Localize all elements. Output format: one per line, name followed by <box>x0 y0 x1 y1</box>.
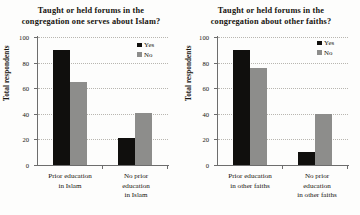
y-tick-0: 0 <box>34 165 38 166</box>
x-category-label-1: Prior education in Islam <box>32 172 108 191</box>
bar-no-group1 <box>250 68 267 165</box>
chart-panel-other-faiths: Taught or held forums in the congregatio… <box>180 0 360 215</box>
bar-yes-group2 <box>298 152 315 165</box>
y-axis-label: Total respondents <box>3 45 11 101</box>
legend-item-yes[interactable]: Yes <box>317 38 334 48</box>
x-axis-line <box>217 165 349 166</box>
chart-title: Taught or held forums in the congregatio… <box>6 6 176 27</box>
chart-panel-islam: Taught or held forums in the congregatio… <box>0 0 180 215</box>
x-tick-mid <box>282 165 283 169</box>
y-tick-20: 20 <box>214 139 218 140</box>
x-tick-end <box>347 165 348 169</box>
x-category-label-2: No prior education in Islam <box>106 172 166 201</box>
chart-title-line-1: Taught or held forums in the <box>186 6 356 17</box>
y-tick-80: 80 <box>214 63 218 64</box>
y-tick-label-100: 100 <box>199 34 209 41</box>
legend-item-no[interactable]: No <box>137 50 154 60</box>
y-tick-100: 100 <box>34 37 38 38</box>
legend-item-yes[interactable]: Yes <box>137 40 154 50</box>
y-tick-label-20: 20 <box>202 136 209 143</box>
legend: Yes No <box>137 40 154 59</box>
y-tick-label-80: 80 <box>202 59 209 66</box>
y-tick-100: 100 <box>214 37 218 38</box>
x-tick-mid <box>102 165 103 169</box>
legend-label-yes: Yes <box>324 38 334 48</box>
gridline-100 <box>38 37 168 38</box>
chart-title-line-2: congregation about other faiths? <box>186 17 356 28</box>
y-tick-20: 20 <box>34 139 38 140</box>
y-tick-80: 80 <box>34 63 38 64</box>
x-axis-line <box>37 165 169 166</box>
y-tick-label-80: 80 <box>22 59 29 66</box>
bar-yes-group1 <box>53 50 70 165</box>
y-axis-line <box>217 36 218 166</box>
legend-swatch-yes-icon <box>317 41 322 46</box>
x-category-label-2: No prior education in other faiths <box>282 172 352 201</box>
legend-item-no[interactable]: No <box>317 48 334 58</box>
chart-title-line-2: congregation one serves about Islam? <box>6 17 176 28</box>
legend: Yes No <box>317 38 334 57</box>
y-tick-label-40: 40 <box>202 110 209 117</box>
y-tick-label-20: 20 <box>22 136 29 143</box>
bar-yes-group2 <box>118 138 135 165</box>
y-tick-label-60: 60 <box>22 85 29 92</box>
y-tick-0: 0 <box>214 165 218 166</box>
bar-no-group2 <box>315 114 332 165</box>
legend-swatch-yes-icon <box>137 43 142 48</box>
legend-swatch-no-icon <box>317 50 322 55</box>
legend-label-no: No <box>324 48 332 58</box>
y-tick-40: 40 <box>214 114 218 115</box>
legend-swatch-no-icon <box>137 52 142 57</box>
figure-container: Taught or held forums in the congregatio… <box>0 0 360 215</box>
bar-no-group2 <box>135 113 152 166</box>
y-tick-40: 40 <box>34 114 38 115</box>
bar-no-group1 <box>70 82 87 165</box>
y-axis-line <box>37 36 38 166</box>
y-tick-label-0: 0 <box>206 162 209 169</box>
chart-title-line-1: Taught or held forums in the <box>6 6 176 17</box>
x-category-label-1: Prior education in other faiths <box>212 172 288 191</box>
bar-yes-group1 <box>233 50 250 165</box>
y-tick-60: 60 <box>34 88 38 89</box>
legend-label-yes: Yes <box>144 40 154 50</box>
x-tick-end <box>167 165 168 169</box>
y-tick-60: 60 <box>214 88 218 89</box>
y-axis-label: Total respondents <box>185 45 193 101</box>
y-tick-label-100: 100 <box>19 34 29 41</box>
y-tick-label-60: 60 <box>202 85 209 92</box>
y-tick-label-40: 40 <box>22 110 29 117</box>
legend-label-no: No <box>144 50 152 60</box>
y-tick-label-0: 0 <box>26 162 29 169</box>
chart-title: Taught or held forums in the congregatio… <box>186 6 356 27</box>
